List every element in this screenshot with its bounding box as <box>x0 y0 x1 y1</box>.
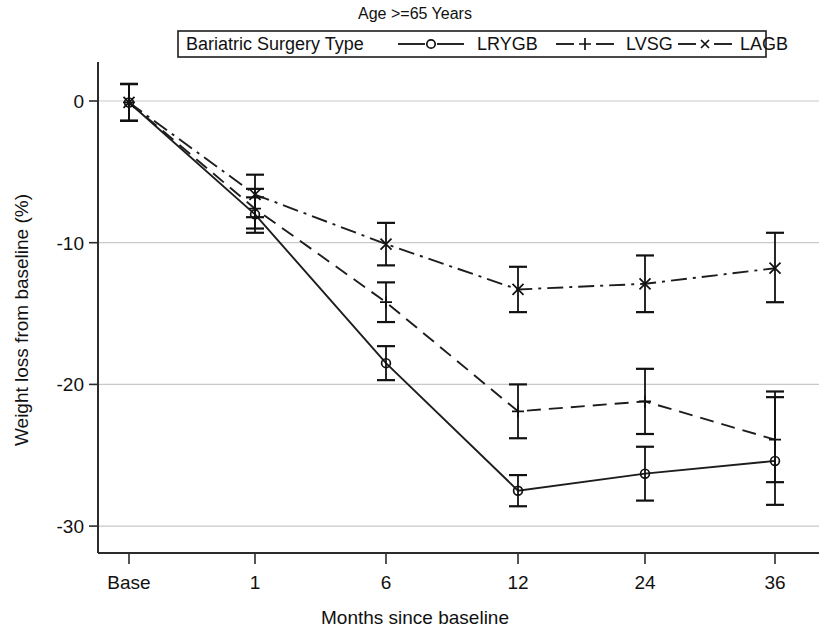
chart-background <box>0 0 829 633</box>
chart-figure: Age >=65 Years Bariatric Surgery Type LR… <box>0 0 829 633</box>
x-tick-label: 12 <box>507 572 528 593</box>
chart-title: Age >=65 Years <box>358 5 472 22</box>
legend-label-lvsg: LVSG <box>626 34 673 54</box>
legend-label-lrygb: LRYGB <box>477 34 538 54</box>
y-tick-label: -30 <box>57 516 84 537</box>
x-tick-label: Base <box>107 572 150 593</box>
legend-label-lagb: LAGB <box>740 34 788 54</box>
y-tick-label: -20 <box>57 374 84 395</box>
x-tick-label: 6 <box>381 572 392 593</box>
weight-loss-line-chart: Age >=65 Years Bariatric Surgery Type LR… <box>0 0 829 633</box>
x-tick-label: 1 <box>250 572 261 593</box>
y-tick-label: -10 <box>57 233 84 254</box>
x-axis-title: Months since baseline <box>321 607 509 628</box>
legend-title: Bariatric Surgery Type <box>186 34 364 54</box>
x-tick-label: 36 <box>764 572 785 593</box>
x-tick-label: 24 <box>634 572 656 593</box>
y-axis-title: Weight loss from baseline (%) <box>11 194 32 446</box>
y-tick-label: 0 <box>73 91 84 112</box>
